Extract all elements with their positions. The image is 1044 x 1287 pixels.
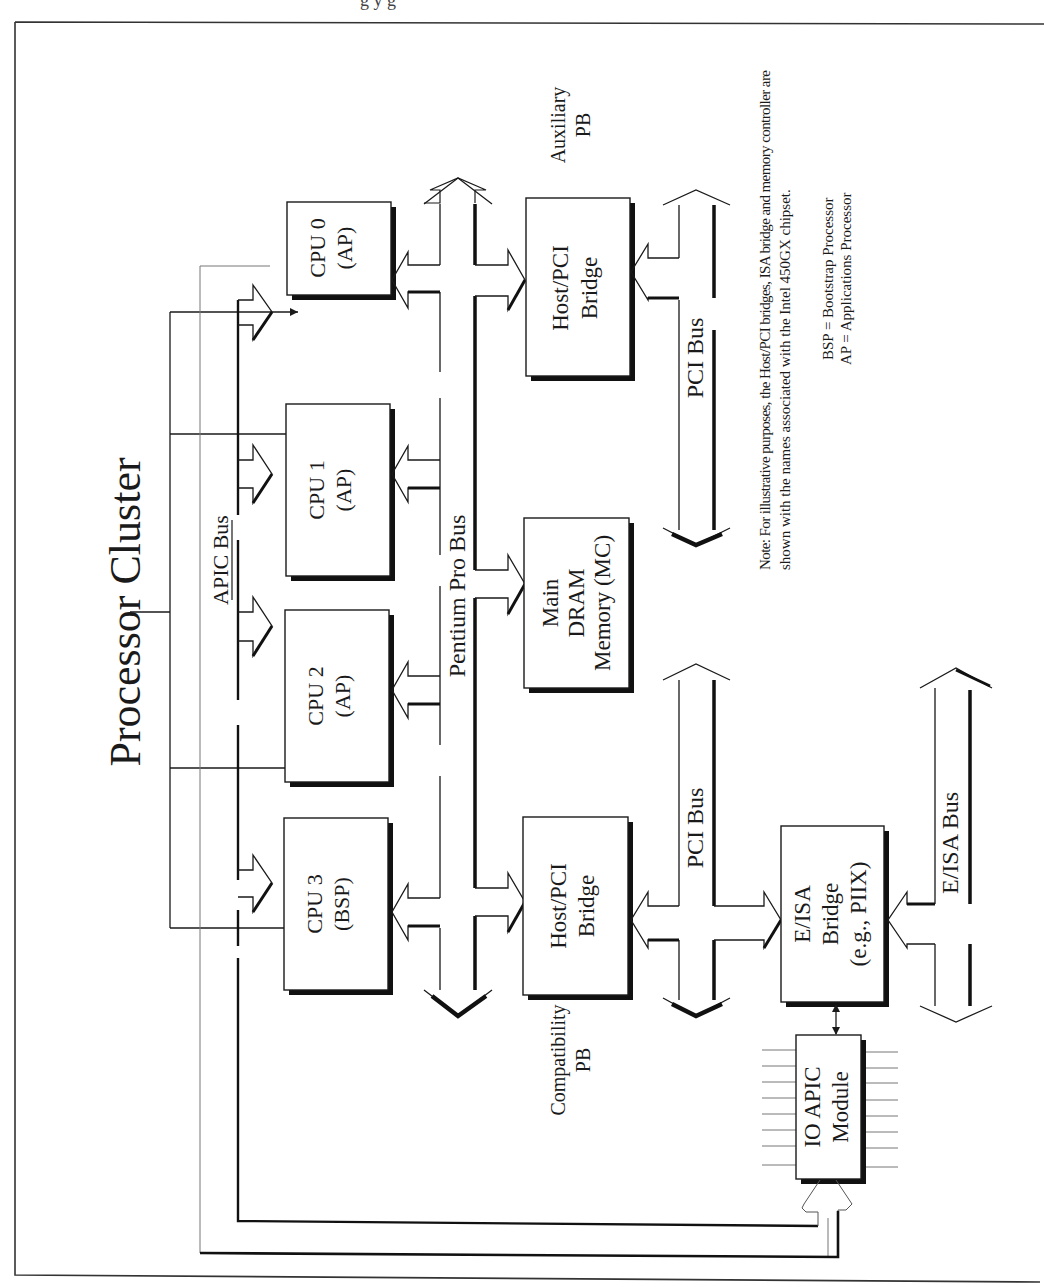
- compatibility-pb-label-line2: PB: [572, 1048, 594, 1072]
- cpu-3-block: CPU 3 (BSP): [284, 818, 393, 995]
- pentium-pro-system-diagram: g y g: [0, 0, 1044, 1287]
- cpu-0-block: CPU 0 (AP): [287, 202, 396, 300]
- pentium-pro-bus-label: Pentium Pro Bus: [444, 515, 470, 678]
- note-line-2: shown with the names associated with the…: [777, 189, 793, 570]
- legend-ap: AP = Applications Processor: [838, 193, 854, 365]
- host-pci-bridge-compatibility: Host/PCI Bridge: [523, 817, 633, 1000]
- memory-line3: Memory (MC): [590, 535, 615, 671]
- io-apic-line2: Module: [828, 1071, 853, 1143]
- host-pci-aux-line1: Host/PCI: [548, 245, 573, 331]
- notes: Note: For illustrative purposes, the Hos…: [757, 70, 854, 570]
- cpu-3-label: CPU 3: [302, 874, 327, 933]
- cpu-1-block: CPU 1 (AP): [286, 404, 395, 581]
- eisa-bridge-line1: E/ISA: [790, 885, 815, 943]
- pci-bus-upper: [631, 190, 730, 545]
- host-pci-bridge-auxiliary: Host/PCI Bridge: [526, 198, 635, 381]
- memory-line1: Main: [538, 578, 563, 627]
- cpu-2-label: CPU 2: [303, 666, 328, 725]
- legend-bsp: BSP = Bootstrap Processor: [820, 198, 836, 361]
- compatibility-pb-label-line1: Compatibility: [547, 1004, 570, 1115]
- eisa-bridge-line3: (e.g., PIIX): [846, 862, 871, 967]
- auxiliary-pb-label-line1: Auxiliary: [547, 87, 570, 164]
- pci-bus-upper-label: PCI Bus: [682, 318, 708, 399]
- cpu-1-role: (AP): [331, 469, 356, 512]
- io-apic-pins-right: [862, 1052, 898, 1167]
- cpu-3-role: (BSP): [329, 877, 354, 931]
- eisa-bridge-line2: Bridge: [818, 883, 843, 946]
- host-pci-compat-line1: Host/PCI: [546, 863, 571, 949]
- io-apic-pins-left: [762, 1050, 796, 1165]
- host-pci-aux-line2: Bridge: [577, 257, 602, 320]
- io-apic-line1: IO APIC: [800, 1066, 825, 1147]
- cpu-1-label: CPU 1: [304, 460, 329, 519]
- processor-cluster-title: Processor Cluster: [101, 457, 150, 767]
- auxiliary-pb-label-line2: PB: [572, 113, 594, 137]
- main-dram-memory-block: Main DRAM Memory (MC): [524, 518, 634, 693]
- memory-line2: DRAM: [564, 568, 589, 637]
- note-line-1: Note: For illustrative purposes, the Hos…: [757, 70, 773, 570]
- eisa-ioapic-connector: [832, 1004, 840, 1035]
- cpu-0-label: CPU 0: [305, 218, 330, 277]
- host-pci-compat-line2: Bridge: [574, 875, 599, 938]
- pci-bus-lower-label: PCI Bus: [682, 788, 708, 869]
- caption-fragment: g y g: [360, 0, 396, 10]
- eisa-bus-label: E/ISA Bus: [937, 792, 963, 894]
- apic-bus-label: APIC Bus: [208, 515, 233, 605]
- eisa-bridge-block: E/ISA Bridge (e.g., PIIX): [781, 826, 889, 1007]
- cpu-0-role: (AP): [332, 227, 357, 270]
- processor-cluster-lines: [130, 308, 298, 932]
- cpu-2-block: CPU 2 (AP): [285, 610, 394, 787]
- cpu-2-role: (AP): [330, 675, 355, 718]
